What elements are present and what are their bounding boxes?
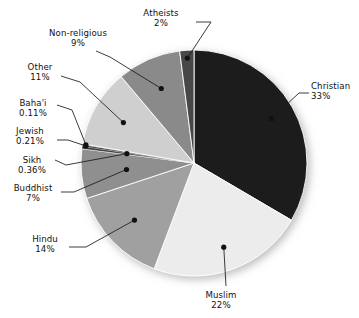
leader-line-jewish: [57, 140, 86, 146]
leader-dot-other: [121, 120, 126, 125]
slice-label-jewish-pct: 0.21%: [2, 136, 58, 146]
slice-label-hindu-name: Hindu: [18, 234, 72, 244]
slice-label-atheists-name: Atheists: [128, 8, 194, 18]
leader-dot-jewish: [83, 143, 88, 148]
slice-label-other: Other 11%: [14, 62, 66, 83]
slice-label-other-name: Other: [14, 62, 66, 72]
slice-label-bahai: Baha'i 0.11%: [6, 98, 60, 119]
slice-label-muslim: Muslim 22%: [192, 290, 250, 311]
slice-label-jewish: Jewish 0.21%: [2, 126, 58, 147]
slice-label-christian-pct: 33%: [311, 91, 359, 101]
slice-label-buddhist-name: Buddhist: [2, 183, 64, 193]
pie-slices-group: [81, 50, 307, 276]
slice-label-christian: Christian 33%: [311, 81, 359, 102]
slice-label-nonreligious-pct: 9%: [36, 38, 120, 48]
slice-label-muslim-name: Muslim: [192, 290, 250, 300]
slice-label-atheists: Atheists 2%: [128, 8, 194, 29]
slice-label-nonreligious: Non-religious 9%: [36, 28, 120, 49]
slice-label-sikh-pct: 0.36%: [6, 165, 58, 175]
slice-label-sikh-name: Sikh: [6, 155, 58, 165]
slice-label-buddhist-pct: 7%: [2, 193, 64, 203]
leader-dot-hindu: [132, 218, 137, 223]
leader-dot-atheists: [185, 56, 190, 61]
leader-dot-muslim: [221, 245, 226, 250]
leader-dot-christian: [269, 116, 274, 121]
leader-dot-buddhist: [124, 167, 129, 172]
leader-line-bahai: [57, 105, 86, 145]
slice-label-bahai-name: Baha'i: [6, 98, 60, 108]
slice-label-other-pct: 11%: [14, 72, 66, 82]
slice-label-nonreligious-name: Non-religious: [36, 28, 120, 38]
leader-dot-nonreligious: [159, 86, 164, 91]
pie-chart-figure: Atheists 2% Non-religious 9% Other 11% B…: [0, 0, 359, 318]
slice-label-atheists-pct: 2%: [128, 18, 194, 28]
slice-label-buddhist: Buddhist 7%: [2, 183, 64, 204]
slice-label-muslim-pct: 22%: [192, 300, 250, 310]
slice-label-sikh: Sikh 0.36%: [6, 155, 58, 176]
slice-label-christian-name: Christian: [311, 81, 359, 91]
slice-label-jewish-name: Jewish: [2, 126, 58, 136]
leader-dot-sikh: [124, 151, 129, 156]
slice-label-hindu-pct: 14%: [18, 244, 72, 254]
slice-label-hindu: Hindu 14%: [18, 234, 72, 255]
slice-label-bahai-pct: 0.11%: [6, 108, 60, 118]
